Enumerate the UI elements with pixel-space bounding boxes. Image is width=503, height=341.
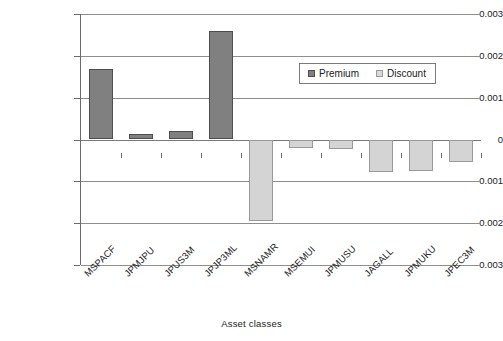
gridline xyxy=(81,98,481,99)
bar-jpjp3ml xyxy=(209,31,233,140)
legend-swatch-discount-icon xyxy=(376,70,383,77)
liquidity-bar-chart: Liquidity 0.0030.0020.0010-0.001-0.002-0… xyxy=(0,0,503,341)
x-axis-tick-mark xyxy=(361,153,362,158)
x-axis-tick-mark xyxy=(281,153,282,158)
gridline xyxy=(81,14,481,15)
chart-legend: Premium Discount xyxy=(299,63,436,84)
legend-label-premium: Premium xyxy=(319,68,359,79)
y-axis-tick-mark xyxy=(74,265,80,266)
legend-swatch-premium-icon xyxy=(308,70,315,77)
bar-msemui xyxy=(289,140,313,149)
gridline xyxy=(81,223,481,224)
legend-entry-premium: Premium xyxy=(308,68,359,79)
x-axis-tick-mark xyxy=(481,153,482,158)
x-axis-tick-mark xyxy=(201,153,202,158)
bar-jpmjpu xyxy=(129,134,153,139)
bar-jagall xyxy=(369,140,393,172)
bar-jpmuku xyxy=(409,140,433,172)
legend-label-discount: Discount xyxy=(387,68,426,79)
gridline xyxy=(81,56,481,57)
bar-jpmusu xyxy=(329,140,353,149)
plot-area xyxy=(80,14,480,265)
legend-entry-discount: Discount xyxy=(376,68,426,79)
bar-jpus3m xyxy=(169,131,193,140)
bar-mspacf xyxy=(89,69,113,139)
x-axis-tick-mark xyxy=(241,153,242,158)
gridline xyxy=(81,181,481,182)
x-axis-tick-mark xyxy=(161,153,162,158)
x-axis-title: Asset classes xyxy=(0,318,503,329)
x-axis-tick-mark xyxy=(441,153,442,158)
x-axis-tick-mark xyxy=(401,153,402,158)
bar-jpec3m xyxy=(449,140,473,162)
x-axis-tick-mark xyxy=(321,153,322,158)
bar-msnamr xyxy=(249,140,273,221)
x-axis-tick-mark xyxy=(121,153,122,158)
